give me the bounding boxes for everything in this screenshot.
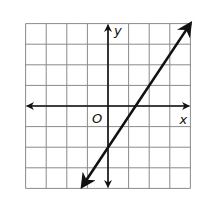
plotted-line <box>82 24 190 187</box>
origin-label: O <box>92 111 102 126</box>
coordinate-plane: x y O <box>0 0 201 198</box>
x-axis-label: x <box>178 112 187 127</box>
axes <box>28 26 189 187</box>
y-axis-label: y <box>113 23 122 38</box>
line-series <box>82 24 190 187</box>
